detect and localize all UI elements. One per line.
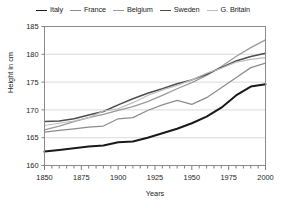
- x-tick-label: 1900: [110, 173, 126, 182]
- y-tick-label: 165: [26, 133, 38, 142]
- x-tick-label: 1850: [36, 173, 52, 182]
- plot-area: 160165170175180185 185018751900192519501…: [0, 0, 286, 208]
- x-axis-ticks: 1850187519001925195019752000: [36, 166, 273, 182]
- x-tick-label: 1875: [73, 173, 89, 182]
- x-tick-label: 1975: [220, 173, 236, 182]
- plot-frame: [45, 27, 266, 166]
- y-tick-label: 160: [26, 161, 38, 170]
- y-axis-ticks: 160165170175180185: [26, 22, 44, 170]
- x-tick-label: 1925: [147, 173, 163, 182]
- y-tick-label: 175: [26, 78, 38, 87]
- data-series: [45, 40, 266, 152]
- gridlines: [45, 54, 266, 137]
- x-tick-label: 2000: [257, 173, 273, 182]
- line-chart: ItalyFranceBelgiumSwedenG. Britain Heigh…: [0, 0, 286, 208]
- series-line-belgium: [45, 40, 266, 130]
- y-tick-label: 180: [26, 50, 38, 59]
- x-tick-label: 1950: [184, 173, 200, 182]
- y-tick-label: 185: [26, 22, 38, 31]
- y-tick-label: 170: [26, 106, 38, 115]
